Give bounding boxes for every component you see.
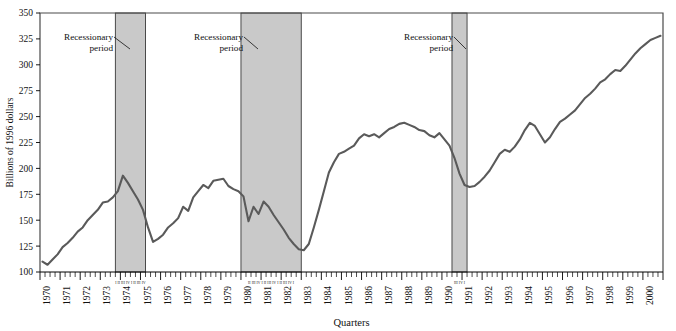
recession-annotation-line2-1: period: [220, 43, 244, 53]
recession-annotation-line1-2: Recessionary: [404, 32, 453, 42]
y-tick-label: 300: [19, 60, 34, 70]
x-year-label: 1975: [143, 286, 153, 305]
x-year-label: 1978: [203, 286, 213, 305]
x-year-label: 1981: [263, 286, 273, 305]
recession-band-1: [241, 13, 301, 272]
x-year-label: 1970: [42, 286, 52, 305]
recession-annotation-line2-2: period: [430, 43, 454, 53]
investment-line-chart: 100125150175200225250275300325350Billion…: [0, 0, 676, 331]
x-year-label: 2000: [645, 286, 655, 305]
x-year-label: 1976: [163, 286, 173, 305]
x-year-label: 1993: [504, 286, 514, 305]
x-year-label: 1995: [544, 286, 554, 305]
y-axis-title: Billions of 1996 dollars: [5, 97, 15, 187]
y-tick-label: 200: [19, 164, 34, 174]
x-year-label: 1988: [404, 286, 414, 305]
x-year-label: 1977: [183, 286, 193, 305]
x-year-label: 1992: [484, 286, 494, 305]
x-year-label: 1994: [524, 286, 534, 305]
recession-annotation-line1-0: Recessionary: [64, 32, 113, 42]
x-year-label: 1982: [283, 286, 293, 305]
y-tick-label: 175: [19, 190, 34, 200]
y-tick-label: 150: [19, 216, 34, 226]
x-year-label: 1983: [303, 286, 313, 305]
chart-figure: 100125150175200225250275300325350Billion…: [0, 0, 676, 331]
x-year-label: 1989: [424, 286, 434, 305]
y-tick-label: 100: [19, 267, 34, 277]
x-year-label: 1991: [464, 286, 474, 305]
recession-annotation-line1-1: Recessionary: [194, 32, 243, 42]
x-axis-title: Quarters: [333, 317, 369, 328]
band-quarter-labels-2: III IV I: [454, 281, 466, 285]
x-year-label: 1987: [384, 286, 394, 305]
x-year-label: 1999: [625, 286, 635, 305]
x-year-label: 1980: [243, 286, 253, 305]
y-tick-label: 225: [19, 138, 34, 148]
recession-band-2: [452, 13, 467, 272]
x-year-label: 1997: [585, 286, 595, 305]
x-year-label: 1990: [444, 286, 454, 305]
x-year-label: 1971: [62, 286, 72, 305]
y-tick-label: 275: [19, 86, 34, 96]
x-year-label: 1998: [605, 286, 615, 305]
y-tick-label: 325: [19, 34, 34, 44]
x-year-label: 1996: [565, 286, 575, 305]
y-tick-label: 125: [19, 242, 34, 252]
band-quarter-labels-0: I II III IV I II III IV: [115, 281, 146, 285]
x-year-label: 1984: [323, 286, 333, 305]
y-tick-label: 350: [19, 8, 34, 18]
x-year-label: 1974: [122, 286, 132, 305]
x-year-label: 1986: [364, 286, 374, 305]
x-year-label: 1973: [102, 286, 112, 305]
band-quarter-labels-1: II III IV I II III IV I II III IV I: [248, 281, 295, 285]
y-tick-label: 250: [19, 112, 34, 122]
x-year-label: 1979: [223, 286, 233, 305]
recession-annotation-line2-0: period: [90, 43, 114, 53]
x-year-label: 1985: [344, 286, 354, 305]
x-year-label: 1972: [82, 286, 92, 305]
recession-band-0: [115, 13, 145, 272]
